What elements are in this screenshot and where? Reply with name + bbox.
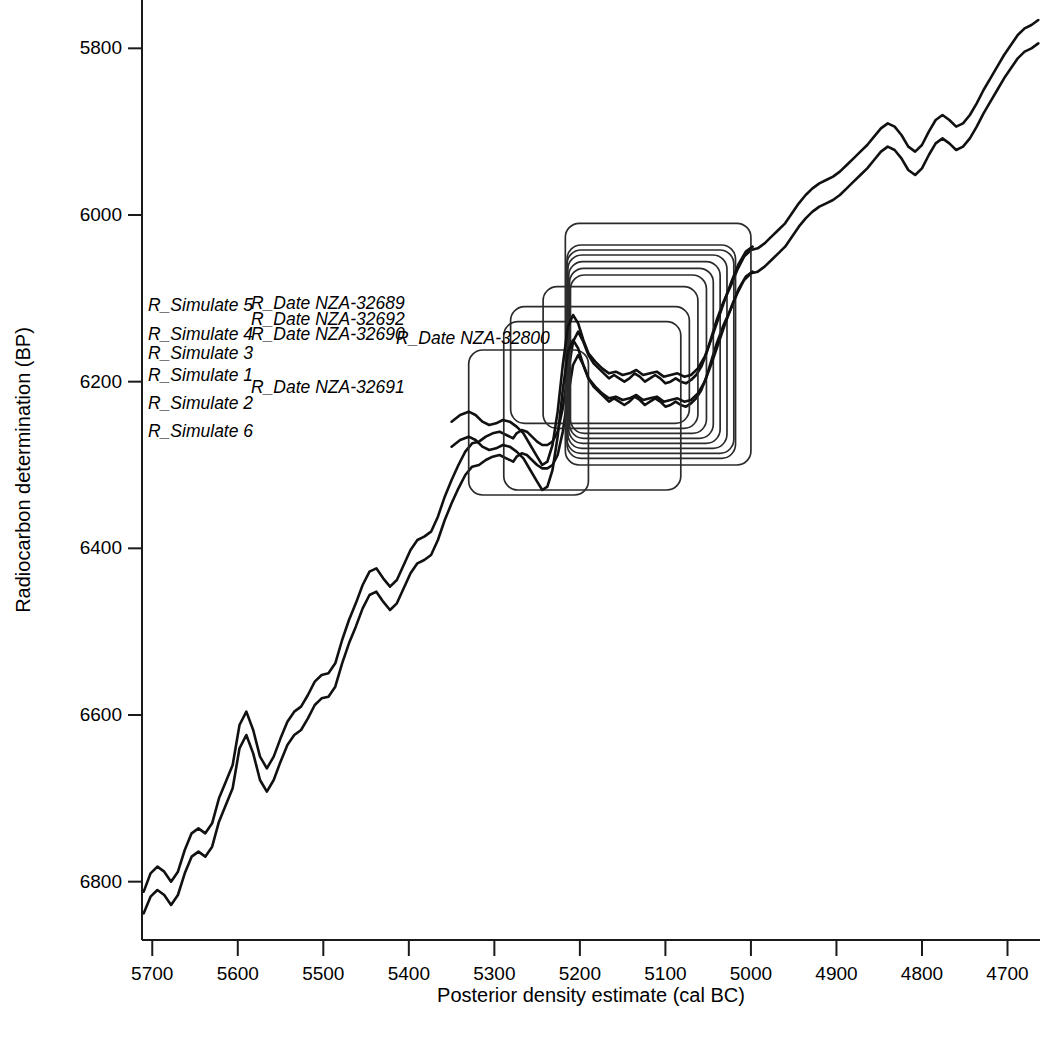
y-tick-label: 6200 xyxy=(80,371,122,392)
y-tick-label: 6400 xyxy=(80,537,122,558)
plot-canvas: 580060006200640066006800 570056005500540… xyxy=(0,0,1042,1037)
x-axis-ticks: 5700560055005400530052005100500049004800… xyxy=(131,940,1029,984)
x-tick-label: 5200 xyxy=(559,963,601,984)
y-tick-label: 6600 xyxy=(80,704,122,725)
y-axis-title: Radiocarbon determination (BP) xyxy=(12,327,34,613)
label-r-date-nza-32800: R_Date NZA-32800 xyxy=(396,328,550,348)
calibration-curve-upper xyxy=(144,20,1039,892)
x-tick-label: 4700 xyxy=(986,963,1028,984)
calibration-curve-lower xyxy=(144,43,1039,913)
label-r-simulate-2: R_Simulate 2 xyxy=(148,393,253,413)
distribution-box xyxy=(570,275,706,433)
x-tick-label: 5500 xyxy=(302,963,344,984)
label-r-simulate-3: R_Simulate 3 xyxy=(148,343,253,363)
x-tick-label: 5400 xyxy=(388,963,430,984)
label-r-simulate-1: R_Simulate 1 xyxy=(148,365,253,385)
x-tick-label: 5000 xyxy=(730,963,772,984)
x-tick-label: 4900 xyxy=(815,963,857,984)
y-tick-label: 6800 xyxy=(80,871,122,892)
x-tick-label: 5100 xyxy=(644,963,686,984)
distribution-box xyxy=(570,268,714,438)
label-r-simulate-4: R_Simulate 4 xyxy=(148,324,253,344)
x-tick-label: 5600 xyxy=(217,963,259,984)
label-r-simulate-6: R_Simulate 6 xyxy=(148,421,253,441)
x-axis-title: Posterior density estimate (cal BC) xyxy=(437,984,745,1006)
x-tick-label: 5700 xyxy=(131,963,173,984)
distribution-box xyxy=(567,245,735,458)
label-r-simulate-5: R_Simulate 5 xyxy=(148,295,253,315)
x-tick-label: 4800 xyxy=(901,963,943,984)
y-tick-label: 5800 xyxy=(80,37,122,58)
x-tick-label: 5300 xyxy=(473,963,515,984)
y-axis-ticks: 580060006200640066006800 xyxy=(80,37,142,891)
label-r-date-nza-32690: R_Date NZA-32690 xyxy=(251,324,405,344)
posterior-curve-lower xyxy=(452,272,753,490)
y-tick-label: 6000 xyxy=(80,204,122,225)
distribution-box-group xyxy=(469,223,751,495)
calibration-curve-group xyxy=(144,20,1039,913)
distribution-box xyxy=(568,255,727,448)
radiocarbon-calibration-plot: 580060006200640066006800 570056005500540… xyxy=(0,0,1042,1037)
label-r-date-nza-32691: R_Date NZA-32691 xyxy=(251,377,405,397)
distribution-label-group: R_Simulate 5R_Date NZA-32689R_Date NZA-3… xyxy=(148,293,550,441)
